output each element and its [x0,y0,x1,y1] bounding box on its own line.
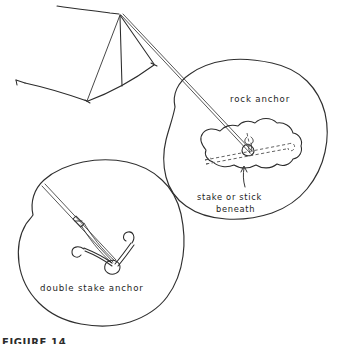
double-stake-blob-outline [18,160,184,326]
main-guy-line-strand-b [123,14,252,151]
right-stake-hook [124,232,134,243]
tent-right-eave-line [120,15,154,64]
left-stake-shaft [84,248,112,263]
tent-left-guy-line [16,80,25,83]
rope-hitch-detail [245,137,247,144]
tent-pole [120,16,122,86]
double-stake-anchor-callout: double stake anchor [18,160,184,326]
stake-or-stick-label-line2: beneath [216,204,255,214]
tent-right-ground-edge [88,65,154,101]
figure-number-caption: FIGURE 14 [2,337,66,344]
main-guy-line-strand-a [121,15,250,153]
tent-front-left-edge [87,15,120,101]
tent-ridge-guy-line [57,6,119,14]
double-stake-anchor-label: double stake anchor [40,283,144,293]
tent-group [16,6,252,153]
double-stake-rope-strand-b [45,184,116,260]
buried-stake-dashed-second [206,149,286,164]
right-stake-shaft [115,243,131,264]
left-stake-hook [72,247,84,257]
left-stake-shaft-2 [85,251,112,266]
tent-left-ground-line [25,83,87,101]
buried-stake-dashed-main [205,144,288,160]
buried-stake-tip-2 [206,163,211,164]
stake-or-stick-label-line1: stake or stick [197,192,262,202]
right-stake-shaft-2 [118,245,134,266]
stake-leader-line [243,168,245,187]
buried-stake-hook [288,143,295,150]
rock-anchor-label: rock anchor [230,94,290,104]
